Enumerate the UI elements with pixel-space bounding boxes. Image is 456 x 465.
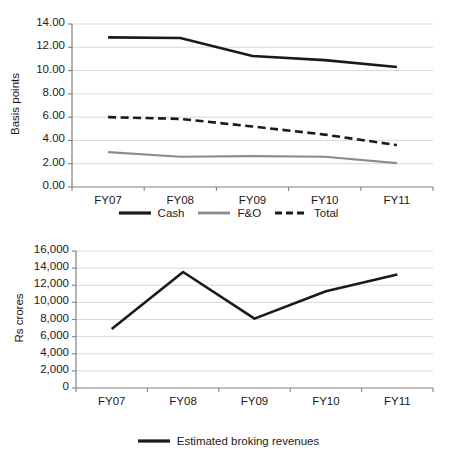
legend-swatch-icon — [274, 207, 308, 219]
legend-swatch-icon — [118, 207, 152, 219]
y-tick-label: 12,000 — [34, 277, 69, 289]
x-tick-label-fy11: FY11 — [362, 395, 433, 407]
broking-revenues-chart: Rs crores Estimated broking revenues 02,… — [0, 230, 456, 465]
x-tick-label-fy10: FY10 — [289, 194, 361, 206]
y-tick-label: 14,000 — [34, 260, 69, 272]
series-line-cash — [108, 37, 397, 67]
y-axis-title-basis-points: Basis points — [9, 72, 21, 134]
y-tick-label: 6.00 — [43, 109, 65, 121]
y-tick-label: 12.00 — [36, 39, 65, 51]
legend-broking-revenues: Estimated broking revenues — [0, 435, 456, 447]
x-tick-label-fy11: FY11 — [361, 194, 433, 206]
legend-label: Cash — [158, 207, 185, 219]
legend-label: Estimated broking revenues — [177, 435, 320, 447]
x-tick-label-fy10: FY10 — [290, 395, 361, 407]
legend-swatch-icon — [137, 435, 171, 447]
y-tick-label: 10.00 — [36, 63, 65, 75]
legend-label: Total — [314, 207, 338, 219]
y-tick-label: 2,000 — [40, 363, 69, 375]
x-tick-label-fy09: FY09 — [216, 194, 288, 206]
y-tick-label: 0 — [63, 380, 69, 392]
legend-label: F&O — [237, 207, 261, 219]
y-tick-label: 16,000 — [34, 243, 69, 255]
legend-entry-cash[interactable]: Cash — [118, 207, 185, 219]
y-tick-label: 8,000 — [40, 312, 69, 324]
basis-points-chart: Basis points CashF&OTotal 0.002.004.006.… — [0, 0, 456, 230]
y-tick-label: 0.00 — [43, 179, 65, 191]
x-tick-label-fy07: FY07 — [76, 395, 147, 407]
series-line-f-o — [108, 152, 397, 163]
legend-entry-f-o[interactable]: F&O — [197, 207, 261, 219]
y-tick-label: 6,000 — [40, 329, 69, 341]
x-tick-label-fy08: FY08 — [147, 395, 218, 407]
series-line-estimated-broking-revenues — [112, 272, 398, 329]
y-tick-label: 8.00 — [43, 86, 65, 98]
figure-two-line-charts: Basis points CashF&OTotal 0.002.004.006.… — [0, 0, 456, 465]
legend-entry-total[interactable]: Total — [274, 207, 338, 219]
y-tick-label: 2.00 — [43, 156, 65, 168]
x-tick-label-fy08: FY08 — [144, 194, 216, 206]
y-tick-label: 10,000 — [34, 294, 69, 306]
legend-swatch-icon — [197, 207, 231, 219]
y-axis-title-rs-crores: Rs crores — [13, 293, 25, 342]
y-tick-label: 4,000 — [40, 346, 69, 358]
x-tick-label-fy09: FY09 — [219, 395, 290, 407]
y-tick-label: 4.00 — [43, 132, 65, 144]
x-tick-label-fy07: FY07 — [72, 194, 144, 206]
y-tick-label: 14.00 — [36, 16, 65, 28]
legend-basis-points: CashF&OTotal — [0, 207, 456, 219]
legend-entry-estimated-broking-revenues[interactable]: Estimated broking revenues — [137, 435, 320, 447]
